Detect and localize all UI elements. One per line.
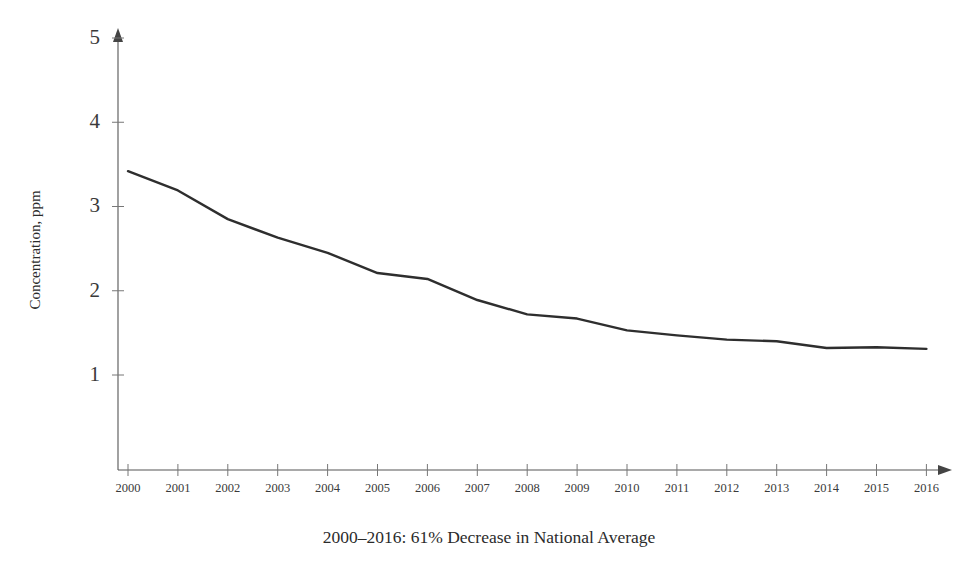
- x-axis-tick-label: 2008: [515, 481, 540, 495]
- x-axis-tick-label: 2015: [864, 481, 889, 495]
- x-axis-tick-label: 2006: [415, 481, 440, 495]
- chart-caption: 2000–2016: 61% Decrease in National Aver…: [323, 527, 656, 547]
- x-axis-tick-label: 2000: [116, 481, 141, 495]
- y-axis-tick-label: 3: [90, 193, 101, 217]
- x-axis-tick-label: 2016: [914, 481, 939, 495]
- x-axis-tick-label: 2010: [615, 481, 640, 495]
- x-axis-tick-label: 2011: [665, 481, 690, 495]
- y-axis-arrow-icon: [113, 28, 123, 42]
- x-axis-tick-label: 2003: [265, 481, 290, 495]
- x-axis-tick-label: 2005: [365, 481, 390, 495]
- x-axis-tick-label: 2007: [465, 481, 490, 495]
- x-axis-tick-label: 2009: [565, 481, 590, 495]
- x-axis-arrow-icon: [938, 465, 952, 475]
- y-axis-ticks: 12345: [90, 25, 125, 386]
- x-axis-tick-label: 2013: [764, 481, 789, 495]
- line-chart-plot: 12345 2000200120022003200420052006200720…: [0, 0, 973, 566]
- x-axis-ticks: 2000200120022003200420052006200720082009…: [116, 464, 939, 495]
- chart-container: 12345 2000200120022003200420052006200720…: [0, 0, 973, 566]
- x-axis-tick-label: 2004: [315, 481, 341, 495]
- y-axis-title: Concentration, ppm: [27, 190, 43, 309]
- y-axis-tick-label: 1: [90, 362, 101, 386]
- x-axis-tick-label: 2001: [165, 481, 190, 495]
- y-axis-tick-label: 2: [90, 278, 101, 302]
- data-series-line: [128, 171, 926, 349]
- x-axis-tick-label: 2002: [215, 481, 240, 495]
- y-axis-tick-label: 4: [90, 109, 101, 133]
- x-axis-tick-label: 2014: [814, 481, 840, 495]
- x-axis-tick-label: 2012: [714, 481, 739, 495]
- y-axis-tick-label: 5: [90, 25, 101, 49]
